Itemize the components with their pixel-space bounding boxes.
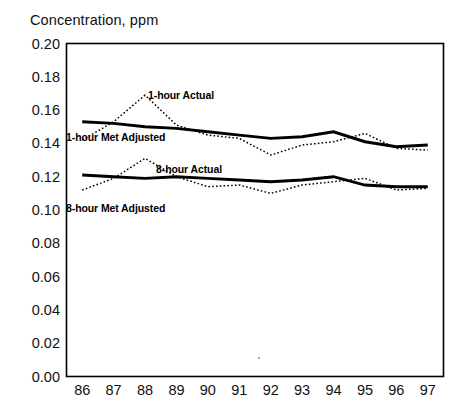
series-lines bbox=[82, 95, 428, 193]
print-speck bbox=[258, 357, 260, 359]
plot-area bbox=[0, 0, 464, 417]
concentration-trend-chart: Concentration, ppm 0.000.020.040.060.080… bbox=[0, 0, 464, 417]
series-line bbox=[82, 122, 428, 147]
series-line bbox=[82, 175, 428, 187]
axis-frame bbox=[67, 44, 444, 377]
series-line bbox=[82, 158, 428, 193]
plot-frame bbox=[67, 44, 444, 377]
